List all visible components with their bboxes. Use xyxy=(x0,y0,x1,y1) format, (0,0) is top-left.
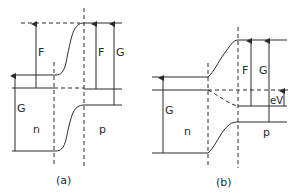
label-g-left-b: G xyxy=(165,104,174,117)
quasi-fermi-dashed-b xyxy=(208,90,238,106)
band-diagram: G F F G n p (a) G F G eV n p (b) xyxy=(0,0,299,195)
panel-b: G F G eV n p (b) xyxy=(152,27,288,189)
label-n-a: n xyxy=(33,123,40,136)
label-ev-b: eV xyxy=(270,95,283,106)
label-f-left-a: F xyxy=(38,46,44,59)
panel-a: G F F G n p (a) xyxy=(12,8,125,187)
label-p-a: p xyxy=(99,123,106,136)
conduction-band-a xyxy=(12,23,122,75)
label-f-right-a: F xyxy=(98,46,104,59)
caption-b: (b) xyxy=(216,176,232,189)
caption-a: (a) xyxy=(56,174,71,187)
label-p-b: p xyxy=(263,126,270,139)
label-g-left-a: G xyxy=(17,102,26,115)
label-g-right-b: G xyxy=(259,64,268,77)
label-g-right-a: G xyxy=(116,46,125,59)
label-f-right-b: F xyxy=(242,64,248,77)
label-n-b: n xyxy=(184,125,191,138)
